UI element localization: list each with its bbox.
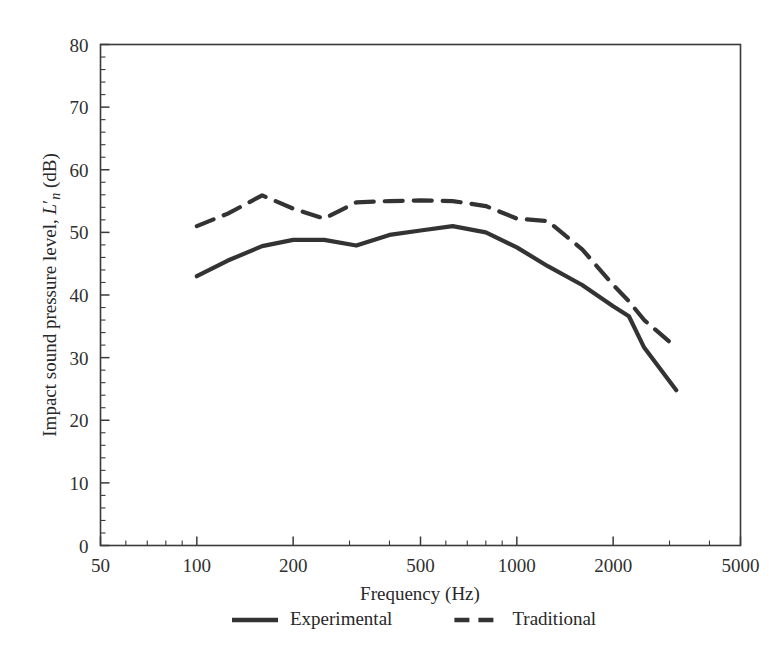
x-axis-tick-label: 2000 bbox=[594, 555, 632, 576]
legend-label-traditional: Traditional bbox=[512, 608, 596, 629]
y-axis-tick-label: 0 bbox=[79, 536, 89, 557]
x-axis-tick-label: 50 bbox=[91, 555, 110, 576]
chart-background bbox=[0, 0, 779, 650]
legend-label-experimental: Experimental bbox=[290, 608, 392, 629]
x-axis-tick-label: 500 bbox=[406, 555, 435, 576]
x-axis-title: Frequency (Hz) bbox=[360, 583, 480, 605]
x-axis-tick-label: 5000 bbox=[722, 555, 760, 576]
y-axis-title-subscript: n bbox=[48, 193, 63, 200]
y-axis-tick-label: 50 bbox=[70, 222, 89, 243]
x-axis-tick-label: 1000 bbox=[498, 555, 536, 576]
y-axis-title-prefix: Impact sound pressure level, bbox=[39, 215, 60, 437]
y-axis-title-suffix: (dB) bbox=[39, 153, 61, 193]
y-axis-tick-label: 10 bbox=[70, 473, 89, 494]
y-axis-tick-label: 70 bbox=[70, 97, 89, 118]
impact-sound-pressure-level-line-chart: 01020304050607080 5010020050010002000500… bbox=[0, 0, 779, 650]
y-axis-tick-label: 40 bbox=[70, 285, 89, 306]
y-axis-title-symbol: L bbox=[39, 204, 60, 216]
y-axis-tick-label: 80 bbox=[70, 35, 89, 56]
y-axis-tick-label: 20 bbox=[70, 410, 89, 431]
chart-figure: 01020304050607080 5010020050010002000500… bbox=[0, 0, 779, 650]
y-axis-tick-label: 60 bbox=[70, 160, 89, 181]
x-axis-tick-label: 100 bbox=[183, 555, 212, 576]
x-axis-tick-label: 200 bbox=[279, 555, 308, 576]
y-axis-tick-label: 30 bbox=[70, 348, 89, 369]
